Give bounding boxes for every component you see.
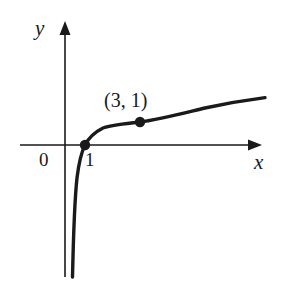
point-annotation-label: (3, 1) <box>104 90 147 110</box>
logarithm-graph-figure: y x 0 1 (3, 1) <box>0 0 285 287</box>
y-axis-label: y <box>35 18 44 39</box>
x-tick-label-one: 1 <box>85 150 95 169</box>
x-axis-label: x <box>254 152 263 173</box>
origin-label: 0 <box>39 150 49 169</box>
data-point-3-1 <box>135 117 145 127</box>
plot-canvas <box>0 0 285 287</box>
x-axis-arrowhead <box>248 140 262 151</box>
logarithmic-curve <box>73 98 266 277</box>
y-axis-arrowhead <box>60 21 71 35</box>
